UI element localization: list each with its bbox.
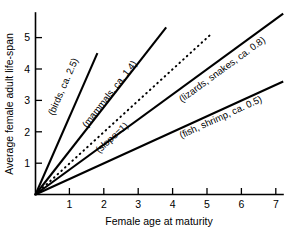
x-tick-label-5: 5 [204, 198, 210, 210]
x-tick-label-4: 4 [170, 198, 176, 210]
y-tick-label-3: 3 [24, 94, 30, 106]
x-tick-label-6: 6 [238, 198, 244, 210]
y-tick-label-2: 2 [24, 126, 30, 138]
x-tick-label-3: 3 [135, 198, 141, 210]
chart-figure: 1 2 3 4 5 1 2 3 4 5 6 7 Female age at ma… [0, 0, 289, 231]
y-tick-label-4: 4 [24, 63, 30, 75]
y-tick-label-1: 1 [24, 157, 30, 169]
x-tick-label-7: 7 [273, 198, 279, 210]
x-tick-label-1: 1 [66, 198, 72, 210]
y-axis-title: Average female adult life-span [3, 33, 15, 175]
life-span-vs-maturity-chart: 1 2 3 4 5 1 2 3 4 5 6 7 Female age at ma… [0, 0, 289, 231]
x-axis-title: Female age at maturity [105, 215, 213, 227]
y-tick-label-5: 5 [24, 31, 30, 43]
x-tick-label-2: 2 [101, 198, 107, 210]
